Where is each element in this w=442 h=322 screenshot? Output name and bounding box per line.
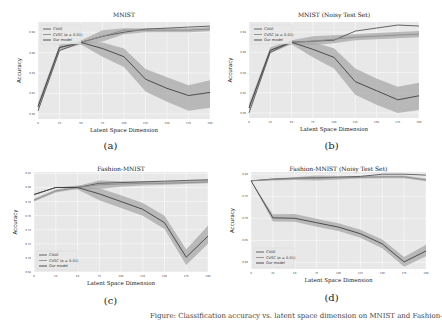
x-tick-label: 150	[374, 121, 379, 124]
y-axis-label: Accuracy	[229, 207, 236, 233]
x-axis-label: Latent Space Dimension	[304, 277, 373, 284]
y-tick-label: 0.75	[242, 195, 248, 198]
y-tick-label: 0.92	[29, 92, 35, 95]
y-tick-label: 0.94	[240, 72, 246, 75]
x-tick-label: 75	[101, 122, 105, 125]
y-tick-label: 0.96	[29, 52, 35, 55]
legend: CVAECVSC (α = 0.01)Our model	[37, 251, 79, 270]
legend-label: CVAE	[266, 250, 276, 254]
x-tick-label: 175	[186, 122, 191, 125]
x-tick-label: 100	[336, 272, 341, 275]
legend-label: Our model	[264, 38, 283, 42]
y-tick-label: 0.96	[240, 51, 246, 54]
x-tick-label: 25	[269, 121, 273, 124]
y-tick-label: 0.98	[240, 31, 246, 34]
chart-title: Fashion-MNIST (Noisy Test Set)	[290, 165, 388, 173]
y-tick-label: 0.82	[25, 172, 31, 175]
x-tick-label: 50	[76, 275, 80, 278]
x-tick-label: 50	[290, 121, 294, 124]
legend: CVAECVSC (α = 0.01)Our model	[254, 248, 296, 267]
x-tick-label: 100	[122, 122, 127, 125]
y-axis-label: Accuracy	[12, 209, 19, 235]
panel-label-b: (b)	[221, 140, 442, 151]
y-tick-label: 0.90	[29, 113, 35, 116]
chart-b: 02550751001251501752000.900.920.940.960.…	[221, 0, 442, 140]
legend-label: CVSC (α = 0.01)	[264, 33, 294, 37]
legend-label: CVSC (α = 0.01)	[49, 259, 79, 263]
y-tick-label: 0.76	[25, 215, 31, 218]
legend-label: Our model	[266, 261, 285, 265]
y-axis-label: Accuracy	[227, 57, 234, 83]
chart-panel-d: 02550751001251501752000.600.650.700.750.…	[221, 160, 442, 310]
x-tick-label: 150	[380, 272, 385, 275]
x-tick-label: 175	[395, 121, 400, 124]
x-tick-label: 0	[37, 122, 39, 125]
y-tick-label: 0.94	[29, 72, 35, 75]
chart-panel-a: 02550751001251501752000.900.920.940.960.…	[0, 0, 221, 150]
chart-a: 02550751001251501752000.900.920.940.960.…	[0, 0, 221, 140]
y-tick-label: 0.70	[25, 257, 31, 260]
chart-title: Fashion-MNIST	[97, 165, 145, 172]
legend-label: CVAE	[264, 27, 274, 31]
x-axis-label: Latent Space Dimension	[300, 126, 369, 133]
y-tick-label: 0.60	[242, 261, 248, 264]
panel-label-a: (a)	[0, 140, 221, 151]
y-axis-label: Accuracy	[16, 57, 23, 83]
x-tick-label: 125	[353, 121, 358, 124]
legend: CVAECVSC (α = 0.01)Our model	[41, 25, 83, 44]
x-tick-label: 25	[58, 122, 62, 125]
x-tick-label: 125	[358, 272, 363, 275]
y-tick-label: 0.92	[240, 92, 246, 95]
chart-c: 02550751001251501752000.680.700.720.740.…	[0, 160, 221, 300]
x-tick-label: 75	[311, 121, 315, 124]
y-tick-label: 0.80	[242, 173, 248, 176]
legend-label: CVSC (α = 0.01)	[266, 256, 296, 260]
x-tick-label: 200	[417, 121, 422, 124]
legend-label: CVAE	[49, 253, 59, 257]
x-tick-label: 75	[98, 275, 102, 278]
x-tick-label: 100	[332, 121, 337, 124]
y-tick-label: 0.98	[29, 31, 35, 34]
chart-title: MNIST	[113, 11, 135, 18]
x-tick-label: 50	[79, 122, 83, 125]
chart-title: MNIST (Noisy Test Set)	[298, 11, 370, 19]
chart-d: 02550751001251501752000.600.650.700.750.…	[221, 160, 442, 300]
x-tick-label: 200	[208, 122, 213, 125]
panel-label-d: (d)	[221, 292, 442, 303]
chart-panel-c: 02550751001251501752000.680.700.720.740.…	[0, 160, 221, 310]
x-tick-label: 75	[315, 272, 319, 275]
x-tick-label: 200	[424, 272, 429, 275]
y-tick-label: 0.68	[25, 271, 31, 274]
x-axis-label: Latent Space Dimension	[90, 127, 159, 134]
legend-label: CVSC (α = 0.01)	[53, 33, 83, 37]
x-tick-label: 25	[271, 272, 275, 275]
legend-label: CVAE	[53, 27, 63, 31]
x-tick-label: 150	[165, 122, 170, 125]
x-tick-label: 50	[293, 272, 297, 275]
x-tick-label: 200	[206, 275, 211, 278]
legend-label: Our model	[49, 264, 68, 268]
chart-panel-b: 02550751001251501752000.900.920.940.960.…	[221, 0, 442, 150]
y-tick-label: 0.70	[242, 217, 248, 220]
legend: CVAECVSC (α = 0.01)Our model	[252, 25, 294, 44]
x-axis-label: Latent Space Dimension	[87, 280, 156, 287]
legend-label: Our model	[53, 38, 72, 42]
x-tick-label: 0	[248, 121, 250, 124]
x-tick-label: 175	[184, 275, 189, 278]
y-tick-label: 0.90	[240, 112, 246, 115]
x-tick-label: 0	[250, 272, 252, 275]
figure-caption: Figure: Classification accuracy vs. late…	[150, 312, 442, 322]
x-tick-label: 175	[402, 272, 407, 275]
x-tick-label: 100	[119, 275, 124, 278]
x-tick-label: 150	[162, 275, 167, 278]
x-tick-label: 25	[54, 275, 58, 278]
x-tick-label: 125	[143, 122, 148, 125]
panel-label-c: (c)	[0, 295, 221, 306]
x-tick-label: 0	[33, 275, 35, 278]
y-tick-label: 0.80	[25, 186, 31, 189]
y-tick-label: 0.72	[25, 243, 31, 246]
x-tick-label: 125	[140, 275, 145, 278]
y-tick-label: 0.65	[242, 239, 248, 242]
y-tick-label: 0.74	[25, 229, 31, 232]
y-tick-label: 0.78	[25, 201, 31, 204]
